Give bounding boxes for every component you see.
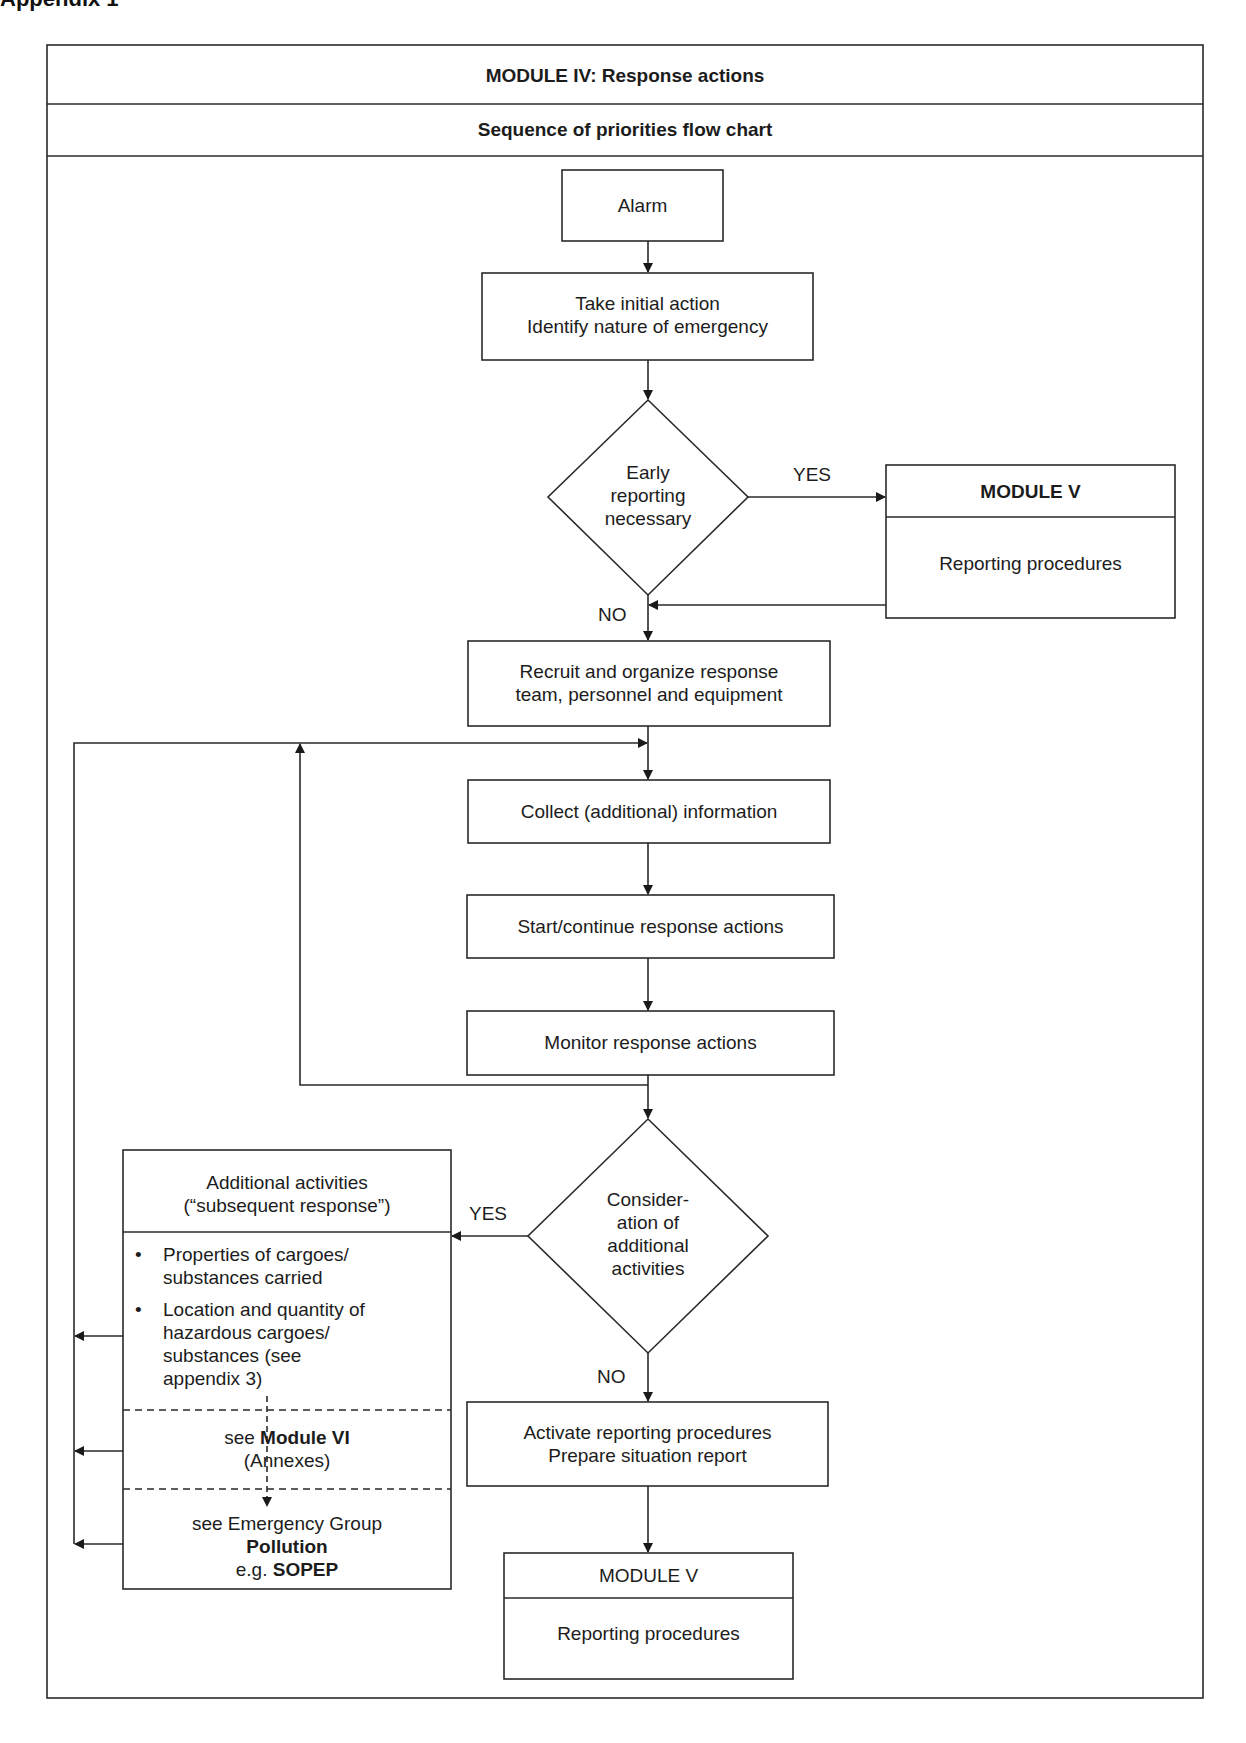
initial-action-line-1: Take initial action [482,292,813,315]
module-iv-title: MODULE IV: Response actions [47,64,1203,87]
additional-activities-bullets: Properties of cargoes/ substances carrie… [123,1243,373,1399]
consideration-line-3: additional [568,1234,728,1257]
see-module-vi: see Module VI (Annexes) [123,1426,451,1472]
flowchart-lines [0,0,1246,1743]
consideration-line-4: activities [568,1257,728,1280]
yes-label-1: YES [793,464,831,486]
start-continue-node: Start/continue response actions [467,915,834,938]
early-reporting-line-2: reporting [568,484,728,507]
activate-node: Activate reporting procedures Prepare si… [467,1421,828,1467]
emergency-group-pollution: Pollution [123,1535,451,1558]
initial-action-node: Take initial action Identify nature of e… [482,292,813,338]
recruit-line-1: Recruit and organize response [468,660,830,683]
no-label-2: NO [597,1366,626,1388]
consideration-line-2: ation of [568,1211,728,1234]
early-reporting-line-3: necessary [568,507,728,530]
consideration-node: Consider- ation of additional activities [568,1188,728,1280]
module-v-top-title: MODULE V [886,480,1175,503]
collect-node: Collect (additional) information [468,800,830,823]
monitor-node: Monitor response actions [467,1031,834,1054]
emergency-group-line-1: see Emergency Group [123,1512,451,1535]
activate-line-2: Prepare situation report [467,1444,828,1467]
initial-action-line-2: Identify nature of emergency [482,315,813,338]
emergency-sopep: SOPEP [273,1559,338,1580]
module-vi-link-text: Module VI [260,1427,350,1448]
module-vi-annexes: (Annexes) [123,1449,451,1472]
consideration-line-1: Consider- [568,1188,728,1211]
alarm-node: Alarm [562,194,723,217]
module-v-bottom-title: MODULE V [504,1564,793,1587]
recruit-node: Recruit and organize response team, pers… [468,660,830,706]
emergency-eg-prefix: e.g. [236,1559,273,1580]
see-emergency-group: see Emergency Group Pollution e.g. SOPEP [123,1512,451,1581]
additional-activities-title: Additional activities (“subsequent respo… [123,1171,451,1217]
recruit-line-2: team, personnel and equipment [468,683,830,706]
early-reporting-node: Early reporting necessary [568,461,728,530]
early-reporting-line-1: Early [568,461,728,484]
flowchart-subtitle: Sequence of priorities flow chart [47,118,1203,141]
module-v-top-body: Reporting procedures [886,552,1175,575]
module-v-bottom-body: Reporting procedures [504,1622,793,1645]
additional-title-line-2: (“subsequent response”) [123,1194,451,1217]
bullet-properties: Properties of cargoes/ substances carrie… [123,1243,373,1289]
module-vi-prefix: see [224,1427,260,1448]
additional-title-line-1: Additional activities [123,1171,451,1194]
yes-label-2: YES [469,1203,507,1225]
bullet-location: Location and quantity of hazardous cargo… [123,1298,373,1390]
no-label-1: NO [598,604,627,626]
activate-line-1: Activate reporting procedures [467,1421,828,1444]
